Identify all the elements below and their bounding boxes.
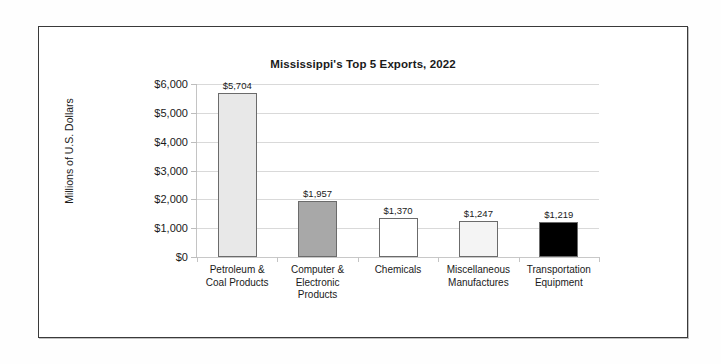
category-label: Chemicals xyxy=(354,264,442,277)
y-axis-title: Millions of U.S. Dollars xyxy=(63,61,75,241)
y-axis-tick xyxy=(191,113,197,114)
x-axis-separator xyxy=(519,257,520,262)
bar[interactable]: $1,219 xyxy=(539,222,578,257)
gridline xyxy=(197,84,599,85)
plot-area: $6,000$5,000$4,000$3,000$2,000$1,000$0 $… xyxy=(197,84,599,257)
chart-frame-border: Mississippi's Top 5 Exports, 2022 Millio… xyxy=(38,26,688,338)
y-axis-label: $4,000 xyxy=(154,136,188,148)
category-label: TransportationEquipment xyxy=(515,264,603,289)
category-label-line: Electronic xyxy=(273,277,361,290)
chart-page: Mississippi's Top 5 Exports, 2022 Millio… xyxy=(0,0,721,364)
gridline xyxy=(197,257,599,258)
gridline xyxy=(197,113,599,114)
category-label-line: Miscellaneous xyxy=(434,264,522,277)
y-axis-label: $6,000 xyxy=(154,78,188,90)
bar-value-label: $1,957 xyxy=(303,188,332,199)
bar-value-label: $5,704 xyxy=(223,80,252,91)
y-axis-label: $1,000 xyxy=(154,222,188,234)
category-label: Petroleum &Coal Products xyxy=(193,264,281,289)
category-label-line: Transportation xyxy=(515,264,603,277)
x-axis-separator xyxy=(277,257,278,262)
category-label: Computer &ElectronicProducts xyxy=(273,264,361,302)
y-axis-tick xyxy=(191,199,197,200)
bar-value-label: $1,370 xyxy=(383,205,412,216)
x-axis-separator xyxy=(197,257,198,262)
category-label-line: Chemicals xyxy=(354,264,442,277)
category-label: MiscellaneousManufactures xyxy=(434,264,522,289)
y-axis-tick xyxy=(191,142,197,143)
y-axis-tick xyxy=(191,171,197,172)
chart-title: Mississippi's Top 5 Exports, 2022 xyxy=(39,58,687,70)
y-axis-label: $0 xyxy=(176,251,188,263)
y-axis-tick xyxy=(191,228,197,229)
bar[interactable]: $1,370 xyxy=(379,218,418,258)
x-axis-separator xyxy=(438,257,439,262)
bar-value-label: $1,247 xyxy=(464,208,493,219)
bar[interactable]: $1,957 xyxy=(298,201,337,257)
category-label-line: Coal Products xyxy=(193,277,281,290)
gridline xyxy=(197,171,599,172)
y-axis-label: $3,000 xyxy=(154,165,188,177)
x-axis-separator xyxy=(358,257,359,262)
gridline xyxy=(197,199,599,200)
x-axis-separator xyxy=(599,257,600,262)
category-label-line: Computer & xyxy=(273,264,361,277)
y-axis-label: $5,000 xyxy=(154,107,188,119)
category-label-line: Products xyxy=(273,289,361,302)
y-axis-tick xyxy=(191,84,197,85)
y-axis-label: $2,000 xyxy=(154,193,188,205)
gridline xyxy=(197,142,599,143)
bar[interactable]: $1,247 xyxy=(459,221,498,257)
category-label-line: Petroleum & xyxy=(193,264,281,277)
category-label-line: Equipment xyxy=(515,277,603,290)
category-label-line: Manufactures xyxy=(434,277,522,290)
bar[interactable]: $5,704 xyxy=(218,93,257,257)
bar-value-label: $1,219 xyxy=(544,209,573,220)
